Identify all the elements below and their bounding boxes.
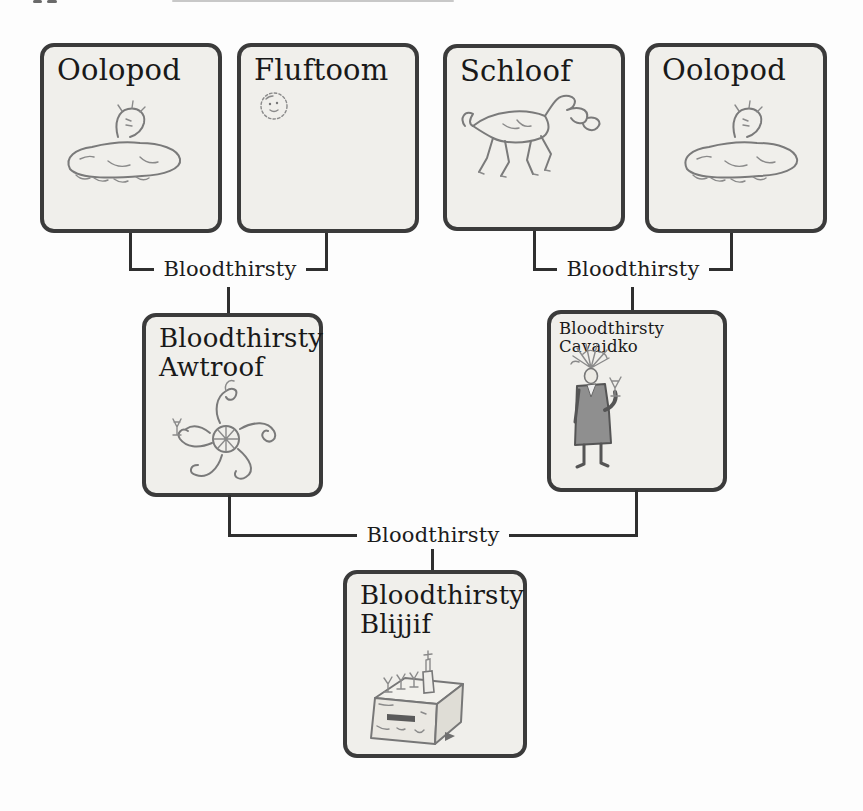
connector-line xyxy=(533,231,536,271)
connector-line xyxy=(631,287,634,310)
cavaidko-creature-icon xyxy=(557,342,631,482)
creature-box-oolopod-1: Oolopod xyxy=(40,43,222,233)
page-header-remnant xyxy=(172,0,454,2)
page-number-remnant xyxy=(33,0,42,3)
blijjif-creature-icon xyxy=(357,646,475,754)
connector-line xyxy=(325,233,328,271)
relation-label-pair1: Bloodthirsty xyxy=(140,256,320,283)
connector-line xyxy=(129,233,132,271)
creature-box-blijjif: Bloodthirsty Blijjif xyxy=(343,570,527,758)
creature-box-oolopod-2: Oolopod xyxy=(645,43,827,233)
connector-line xyxy=(635,490,638,537)
creature-box-cavaidko: Bloodthirsty Cavaidko xyxy=(547,310,727,492)
page-number-remnant xyxy=(47,0,57,3)
creature-label: Schloof xyxy=(447,48,621,87)
relation-label-pair3: Bloodthirsty xyxy=(343,522,523,549)
schloof-creature-icon xyxy=(457,84,615,186)
connector-line xyxy=(228,495,231,537)
connector-line xyxy=(730,233,733,271)
connector-line xyxy=(227,287,230,313)
oolopod-creature-icon xyxy=(673,99,815,191)
creature-box-awtroof: Bloodthirsty Awtroof xyxy=(142,313,323,497)
connector-line xyxy=(431,548,434,570)
creature-label: Fluftoom xyxy=(241,47,415,86)
creature-label: Bloodthirsty Blijjif xyxy=(347,574,523,639)
creature-label: Oolopod xyxy=(649,47,823,86)
oolopod-creature-icon xyxy=(56,99,198,191)
book-figure-page: Oolopod Fluftoom Schloof xyxy=(0,0,863,811)
relation-label-pair2: Bloodthirsty xyxy=(543,256,723,283)
fluftoom-creature-icon xyxy=(255,87,293,125)
awtroof-creature-icon xyxy=(160,377,292,493)
creature-label: Bloodthirsty Awtroof xyxy=(146,317,319,382)
creature-label: Oolopod xyxy=(44,47,218,86)
creature-box-schloof: Schloof xyxy=(443,44,625,231)
creature-box-fluftoom: Fluftoom xyxy=(237,43,419,233)
